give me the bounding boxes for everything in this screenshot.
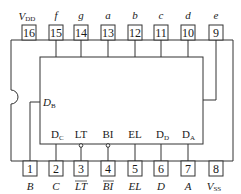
pin-16-label: VDD — [19, 10, 36, 23]
pin-1-label: B — [27, 180, 34, 192]
pin-3-label: LT — [74, 180, 88, 192]
inner-label-lt: LT — [75, 128, 88, 140]
pin-1-number: 1 — [27, 162, 33, 176]
pin-13-number: 13 — [102, 26, 114, 40]
lt-inversion-bubble — [79, 144, 83, 148]
pin-9-label: e — [214, 9, 219, 21]
pin-7-label: A — [184, 180, 192, 192]
pin-5-number: 5 — [132, 162, 138, 176]
pin-12-label: b — [132, 9, 138, 21]
pin-16-number: 16 — [23, 26, 35, 40]
inner-chip-box — [40, 57, 203, 144]
pin-14-label: g — [78, 9, 84, 21]
inner-label-bi: BI — [103, 128, 114, 140]
pin-15-number: 15 — [50, 26, 62, 40]
pin-9-number: 9 — [213, 26, 219, 40]
pin-10-label: d — [185, 9, 191, 21]
inner-label-el: EL — [128, 128, 142, 140]
bi-inversion-bubble — [106, 144, 110, 148]
pin-4-label: BI — [103, 180, 115, 192]
pin-11-label: c — [159, 9, 164, 21]
pin-13-label: a — [105, 9, 111, 21]
pin-11-number: 11 — [155, 26, 167, 40]
pin-2-label: C — [52, 180, 60, 192]
pin-10-number: 10 — [182, 26, 194, 40]
pin-6-number: 6 — [158, 162, 164, 176]
pin-15-label: f — [54, 9, 59, 21]
pin-2-number: 2 — [53, 162, 59, 176]
pin-5-label: EL — [128, 180, 142, 192]
ic-pinout-diagram: 16 15 14 13 12 11 10 9 VDD f g a b c d e… — [0, 0, 241, 194]
pin-6-label: D — [156, 180, 165, 192]
pin-8-number: 8 — [213, 162, 219, 176]
pin-3-number: 3 — [78, 162, 84, 176]
pin-8-label: VSS — [207, 180, 222, 193]
pin-12-number: 12 — [129, 26, 141, 40]
pin-14-number: 14 — [75, 26, 87, 40]
pin-4-number: 4 — [105, 162, 111, 176]
pin-7-number: 7 — [185, 162, 191, 176]
